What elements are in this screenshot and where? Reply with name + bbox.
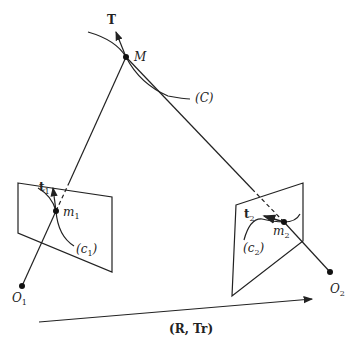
epipolar-diagram: T M (C) t1 m1 (c1) O1 t2 m2 (c2) O2 (R, … [0, 0, 359, 348]
ray-O2-m2 [284, 222, 330, 272]
curve-C [88, 32, 190, 99]
label-t2: t2 [244, 208, 255, 223]
ray-plane-M-2 [126, 57, 253, 190]
point-O1 [19, 283, 25, 289]
ray-plane-M [69, 57, 126, 183]
tangent-T-arrow [116, 32, 126, 57]
label-M: M [134, 51, 146, 63]
diagram-canvas [0, 0, 359, 348]
label-O2: O2 [330, 283, 345, 298]
point-M [123, 54, 129, 60]
label-m1: m1 [63, 206, 79, 221]
label-m2: m2 [273, 225, 289, 240]
label-c1: (c1) [76, 243, 97, 258]
label-c2: (c2) [243, 242, 264, 257]
point-O2 [327, 269, 333, 275]
label-t1: t1 [39, 181, 50, 196]
transform-arrow [39, 299, 312, 322]
label-C: (C) [195, 92, 214, 104]
label-O1: O1 [12, 292, 27, 307]
label-transform: (R, Tr) [169, 323, 213, 335]
ray-O1-m1 [22, 211, 56, 286]
image-plane-1 [18, 183, 112, 272]
label-T: T [107, 14, 116, 26]
image-plane-2 [232, 183, 303, 296]
point-m1 [53, 208, 59, 214]
